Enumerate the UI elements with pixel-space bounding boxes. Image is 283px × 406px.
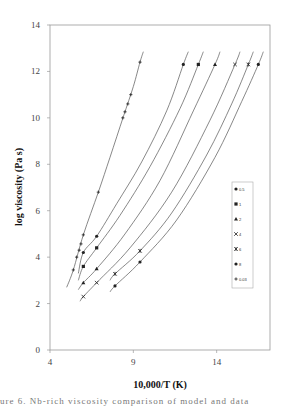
legend-marker-1 [234,202,237,205]
data-point-0_5 [95,235,98,238]
data-point-1 [95,246,98,249]
y-tick-label: 10 [31,113,41,123]
data-point-0_5 [82,251,85,254]
legend-marker-0_5 [234,187,237,190]
x-axis: 4914 [48,350,222,367]
chart: 02468101214 4914 10,000/T (K) log viscos… [0,0,283,406]
y-axis: 02468101214 [31,20,50,355]
data-point-0_5 [182,63,185,66]
y-tick-label: 0 [36,345,41,355]
data-point-8 [138,260,141,263]
data-point-8 [113,284,116,287]
legend-label: 0.5 [239,187,245,192]
x-tick-label: 14 [212,357,222,367]
data-point-8 [257,63,260,66]
y-tick-label: 8 [36,159,41,169]
data-point-1 [197,63,200,66]
y-tick-label: 14 [31,20,41,30]
y-tick-label: 2 [36,299,41,309]
y-tick-label: 12 [31,66,40,76]
legend-label: 0.03 [239,277,248,282]
data-point-1 [82,265,85,268]
y-tick-label: 6 [36,206,41,216]
figure-caption: ure 6. Nb-rich viscosity comparison of m… [0,396,283,406]
x-tick-label: 9 [131,357,136,367]
legend-marker-8 [234,262,237,265]
x-tick-label: 4 [48,357,53,367]
y-axis-title: log viscosity (Pa s) [13,148,25,226]
x-axis-title: 10,000/T (K) [133,379,187,391]
y-tick-label: 4 [36,252,41,262]
legend: 0.5124680.03 [232,182,253,288]
